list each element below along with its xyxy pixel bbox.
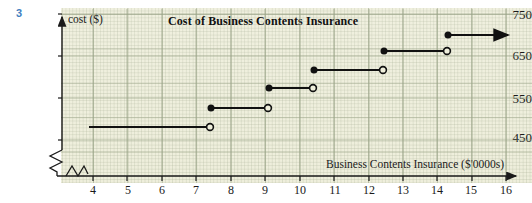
open-endpoint-marker bbox=[380, 67, 387, 74]
open-endpoint-marker bbox=[444, 48, 451, 55]
filled-endpoint-marker bbox=[266, 85, 273, 92]
open-endpoint-marker bbox=[310, 85, 317, 92]
x-axis-ticks bbox=[93, 176, 506, 181]
step-segment-1 bbox=[89, 124, 213, 131]
open-endpoint-marker bbox=[207, 124, 214, 131]
open-endpoint-marker bbox=[265, 105, 272, 112]
y-axis bbox=[50, 14, 62, 176]
filled-endpoint-marker bbox=[208, 105, 215, 112]
chart-figure: 3 750 650 550 450 cost ($) Business Cont… bbox=[0, 0, 532, 203]
step-segment-5 bbox=[381, 48, 451, 55]
filled-endpoint-marker bbox=[445, 32, 452, 39]
chart-vector-layer bbox=[0, 0, 532, 203]
step-segment-2 bbox=[208, 105, 272, 112]
y-axis-break-symbol bbox=[50, 150, 62, 176]
x-axis-break-symbol bbox=[66, 166, 88, 176]
x-axis bbox=[57, 166, 516, 181]
filled-endpoint-marker bbox=[381, 48, 388, 55]
gridlines-vertical bbox=[93, 9, 506, 176]
gridlines-horizontal bbox=[62, 14, 532, 140]
filled-endpoint-marker bbox=[311, 67, 318, 74]
step-segment-3 bbox=[266, 85, 317, 92]
step-segment-4 bbox=[311, 67, 387, 74]
step-segment-6 bbox=[445, 32, 509, 39]
